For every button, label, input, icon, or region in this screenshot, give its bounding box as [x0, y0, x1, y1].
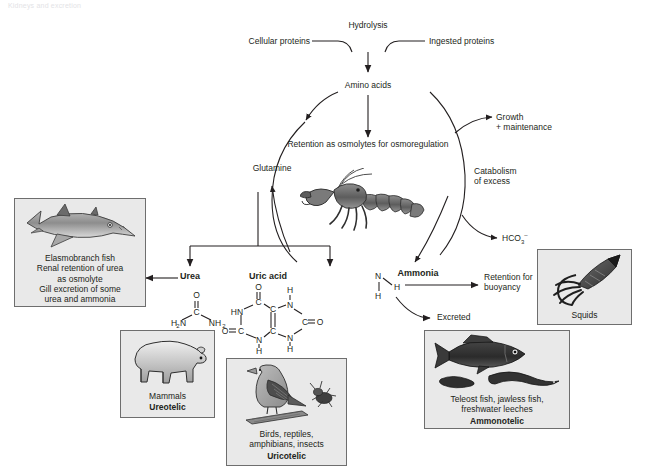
panel-caption-squids: Squids	[538, 310, 631, 320]
svg-text:C: C	[270, 326, 276, 336]
svg-text:O: O	[193, 290, 200, 300]
label-hydrolysis: Hydrolysis	[348, 20, 387, 30]
label-bicarbonate: HCO3–	[502, 232, 528, 246]
label-uric-acid: Uric acid	[249, 271, 287, 282]
ammonia-structure: N H H	[370, 268, 410, 304]
shark-icon	[21, 203, 141, 251]
svg-text:O: O	[255, 282, 262, 292]
label-cellular-proteins: Cellular proteins	[249, 36, 310, 46]
bicarbonate-base: HCO	[502, 233, 521, 243]
svg-text:C: C	[193, 307, 199, 317]
svg-text:HN: HN	[231, 307, 243, 317]
running-head: Kidneys and excretion	[8, 2, 81, 9]
svg-text:H: H	[394, 282, 400, 292]
label-excreted: Excreted	[437, 312, 471, 322]
panel-squids: Squids	[537, 249, 632, 325]
label-ingested-proteins: Ingested proteins	[429, 36, 494, 46]
label-amino-acids: Amino acids	[345, 80, 391, 90]
bear-icon	[127, 335, 211, 390]
panel-caption-teleost-strategy: Ammonotelic	[425, 416, 569, 426]
panel-caption-birds: Birds, reptiles, amphibians, insects	[227, 429, 346, 450]
label-retention-osmolytes: Retention as osmolytes for osmoregulatio…	[287, 139, 448, 149]
panel-elasmobranch: Elasmobranch fish Renal retention of ure…	[14, 198, 146, 307]
panel-caption-elasmobranch: Elasmobranch fish Renal retention of ure…	[15, 253, 145, 305]
bird-and-insect-icon	[232, 362, 344, 428]
label-glutamine: Glutamine	[253, 163, 292, 173]
panel-mammals: Mammals Ureotelic	[120, 330, 215, 418]
label-catabolism-of-excess: Catabolism of excess	[474, 166, 517, 187]
panel-birds: Birds, reptiles, amphibians, insects Uri…	[226, 358, 347, 466]
svg-text:C: C	[302, 317, 308, 327]
squid-icon	[542, 253, 628, 308]
svg-text:O: O	[222, 326, 229, 336]
svg-text:H: H	[375, 291, 381, 301]
svg-text:C: C	[238, 326, 244, 336]
bicarbonate-subscript: 3	[521, 239, 524, 245]
panel-teleost: Teleost fish, jawless fish, freshwater l…	[424, 330, 570, 429]
label-urea: Urea	[180, 271, 200, 282]
svg-text:H: H	[287, 344, 293, 354]
panel-caption-birds-strategy: Uricotelic	[227, 451, 346, 461]
svg-text:N: N	[287, 333, 293, 343]
svg-text:O: O	[317, 317, 324, 327]
svg-text:N: N	[256, 335, 262, 345]
svg-text:H: H	[287, 285, 293, 295]
panel-caption-mammals-strategy: Ureotelic	[121, 402, 214, 412]
uric-acid-structure: O C HN C O N H C C N H C O N H	[216, 282, 328, 354]
svg-text:C: C	[255, 297, 261, 307]
svg-text:N: N	[375, 271, 381, 281]
nitrogen-excretion-diagram: Kidneys and excretion	[0, 0, 651, 473]
svg-text:C: C	[270, 304, 276, 314]
bicarbonate-superscript: –	[524, 232, 527, 238]
svg-text:N: N	[180, 318, 186, 328]
label-growth-maintenance: Growth + maintenance	[496, 112, 552, 133]
svg-text:H: H	[256, 346, 262, 354]
svg-text:N: N	[287, 300, 293, 310]
panel-caption-mammals: Mammals	[121, 391, 214, 401]
panel-caption-teleost: Teleost fish, jawless fish, freshwater l…	[425, 394, 569, 415]
label-retention-buoyancy: Retention for buoyancy	[484, 272, 533, 293]
fish-lamprey-leech-icon	[431, 334, 565, 394]
crayfish-illustration	[300, 168, 425, 240]
